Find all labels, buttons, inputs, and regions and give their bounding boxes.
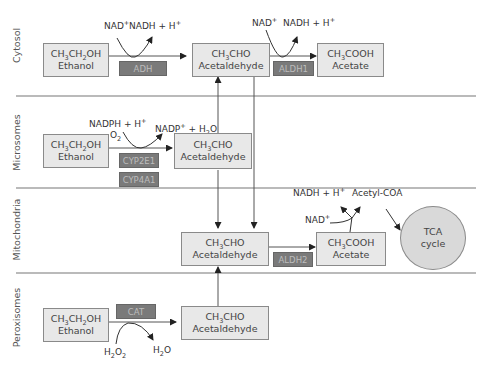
- enzyme-aldh2: ALDH2: [273, 252, 313, 267]
- microsomes-o2-label: O2: [110, 130, 121, 140]
- mitochondria-acetaldehyde-box: CH3CHO Acetaldehyde: [181, 232, 269, 266]
- peroxisomes-acetaldehyde-box: CH3CHO Acetaldehyde: [181, 306, 269, 340]
- ethanol-formula: CH3CH2OH: [51, 313, 101, 325]
- tca-cycle-circle: TCA cycle: [400, 206, 466, 270]
- ethanol-formula: CH3CH2OH: [51, 48, 101, 60]
- mitochondria-acetate-box: CH3COOH Acetate: [316, 232, 386, 266]
- enzyme-adh: ADH: [119, 61, 167, 76]
- peroxisomes-h2o-label: H2O: [153, 345, 171, 355]
- cytosol-ethanol-box: CH3CH2OH Ethanol: [43, 43, 109, 77]
- ethanol-label: Ethanol: [58, 325, 94, 337]
- cytosol-nad-in-label-2: NAD+: [252, 18, 277, 28]
- microsomes-nadph-in-label: NADPH + H+: [89, 119, 147, 129]
- acetate-label: Acetate: [332, 60, 369, 72]
- ethanol-label: Ethanol: [58, 60, 94, 72]
- cytosol-acetate-box: CH3COOH Acetate: [317, 43, 384, 77]
- mitochondria-nad-in-label: NAD+: [305, 215, 330, 225]
- ethanol-label: Ethanol: [58, 151, 94, 163]
- enzyme-cyp2e1: CYP2E1: [119, 153, 159, 168]
- enzyme-cat: CAT: [116, 304, 156, 319]
- microsomes-acetaldehyde-box: CH3CHO Acetaldehyde: [174, 133, 252, 169]
- acetaldehyde-label: Acetaldehyde: [199, 60, 264, 72]
- acetaldehyde-formula: CH3CHO: [205, 237, 244, 249]
- acetate-label: Acetate: [333, 249, 370, 261]
- acetate-formula: CH3COOH: [328, 237, 375, 249]
- compartment-label-microsomes: Microsomes: [11, 114, 22, 172]
- acetaldehyde-formula: CH3CHO: [193, 139, 232, 151]
- microsomes-ethanol-box: CH3CH2OH Ethanol: [43, 134, 109, 168]
- enzyme-cyp4a1: CYP4A1: [119, 172, 159, 187]
- acetate-formula: CH3COOH: [327, 48, 374, 60]
- cytosol-nad-in-label: NAD+: [104, 21, 129, 31]
- tca-cycle-label-1: TCA: [424, 226, 442, 238]
- cytosol-nadh-out-label: NADH + H+: [129, 21, 181, 31]
- ethanol-formula: CH3CH2OH: [51, 139, 101, 151]
- peroxisomes-h2o2-label: H2O2: [104, 347, 126, 357]
- mitochondria-acetyl-coa-label: Acetyl-COA: [352, 188, 402, 198]
- acetaldehyde-formula: CH3CHO: [205, 311, 244, 323]
- peroxisomes-ethanol-box: CH3CH2OH Ethanol: [43, 308, 109, 342]
- cytosol-nadh-out-label-2: NADH + H+: [283, 18, 335, 28]
- acetaldehyde-formula: CH3CHO: [211, 48, 250, 60]
- compartment-label-cytosol: Cytosol: [11, 26, 22, 66]
- acetaldehyde-label: Acetaldehyde: [193, 249, 258, 261]
- enzyme-aldh1: ALDH1: [273, 61, 314, 76]
- acetaldehyde-label: Acetaldehyde: [181, 151, 246, 163]
- cytosol-acetaldehyde-box: CH3CHO Acetaldehyde: [192, 43, 270, 77]
- acetaldehyde-label: Acetaldehyde: [193, 323, 258, 335]
- mitochondria-nadh-out-label: NADH + H+: [293, 188, 345, 198]
- tca-cycle-label-2: cycle: [421, 238, 446, 250]
- compartment-label-mitochondria: Mitochondria: [11, 199, 22, 261]
- compartment-label-peroxisomes: Peroxisomes: [11, 288, 22, 348]
